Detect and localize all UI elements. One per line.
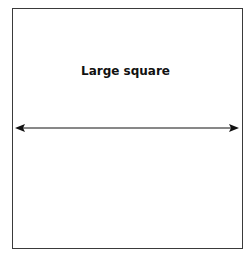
double-arrow-icon [0,0,251,256]
